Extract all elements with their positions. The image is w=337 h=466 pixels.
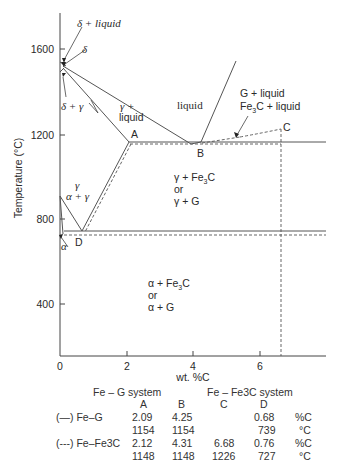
table-cell: 4.25	[172, 411, 192, 423]
table-unit: %C	[295, 411, 312, 423]
table-cell: 6.68	[214, 437, 234, 449]
table-cell: 0.76	[254, 437, 274, 449]
col-c: C	[220, 398, 228, 410]
table-cell: 1148	[172, 450, 195, 462]
table-cell: 1226	[212, 450, 235, 462]
table-cell: 0.68	[254, 411, 274, 423]
table-cell: 4.31	[172, 437, 192, 449]
table-cell: 2.12	[132, 437, 152, 449]
table-unit: %C	[295, 437, 312, 449]
table-unit: °C	[299, 450, 311, 462]
table-header-fe-fe3c: Fe – Fe3C system	[207, 386, 293, 398]
table-header-fe-g: Fe – G system	[93, 386, 161, 398]
table-cell: 2.09	[132, 411, 152, 423]
table-cell: 727	[258, 450, 276, 462]
table-cell: 1154	[132, 424, 155, 436]
col-a: A	[140, 398, 147, 410]
col-b: B	[178, 398, 185, 410]
table-cell: 1148	[132, 450, 155, 462]
col-d: D	[260, 398, 268, 410]
table-cell: 1154	[172, 424, 195, 436]
row-label-fe-fe3c: (---) Fe–Fe3C	[56, 437, 120, 449]
invariant-points-table: Fe – G system Fe – Fe3C system A B C D (…	[0, 0, 337, 466]
table-unit: °C	[299, 424, 311, 436]
table-cell: 739	[258, 424, 276, 436]
row-label-fe-g: (—) Fe–G	[56, 411, 103, 423]
